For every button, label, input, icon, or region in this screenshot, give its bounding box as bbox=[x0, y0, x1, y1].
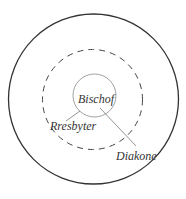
label-presbyter: Rresbyter bbox=[49, 119, 97, 133]
diakone-leader-line bbox=[100, 108, 136, 146]
label-bischof: Bischof bbox=[78, 92, 116, 106]
hierarchy-circle-diagram: Bischof Rresbyter Diakone bbox=[0, 0, 186, 199]
label-diakone: Diakone bbox=[115, 149, 157, 163]
diagram-canvas: Bischof Rresbyter Diakone bbox=[0, 0, 186, 199]
